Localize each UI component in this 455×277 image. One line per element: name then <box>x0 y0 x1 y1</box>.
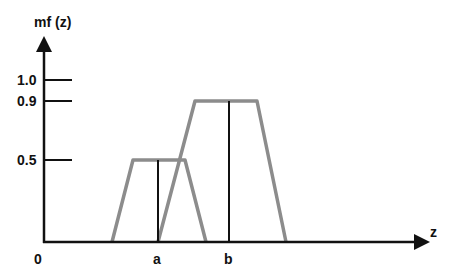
y-tick-label-0.5: 0.5 <box>17 152 37 168</box>
trapezoid-b <box>158 101 286 242</box>
membership-function-diagram: mf (z) 1.0 0.9 0.5 0 a b z <box>0 0 455 277</box>
x-axis-label: z <box>430 224 437 240</box>
y-axis-label: mf (z) <box>34 14 71 30</box>
x-axis-arrow-icon <box>414 234 430 250</box>
origin-label: 0 <box>34 251 42 267</box>
x-tick-label-a: a <box>153 251 161 267</box>
y-axis-arrow-icon <box>36 36 52 52</box>
y-tick-label-1.0: 1.0 <box>17 72 37 88</box>
x-tick-label-b: b <box>224 251 233 267</box>
y-tick-label-0.9: 0.9 <box>17 93 37 109</box>
